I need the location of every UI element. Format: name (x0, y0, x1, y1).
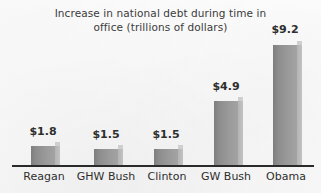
category-label-ghw-bush: GHW Bush (71, 170, 141, 183)
bar-clinton[interactable] (154, 145, 178, 167)
bar-value-obama: $9.2 (261, 23, 309, 36)
bar-obama[interactable] (273, 41, 297, 167)
bar-reagan-side-face (55, 146, 60, 167)
x-axis-line (12, 165, 314, 167)
bar-value-reagan: $1.8 (19, 125, 67, 138)
category-label-gw-bush: GW Bush (192, 170, 260, 183)
bar-reagan-front-face (31, 146, 55, 167)
bar-value-gw-bush: $4.9 (202, 80, 250, 93)
bar-value-ghw-bush: $1.5 (82, 128, 130, 141)
bar-gw-bush[interactable] (214, 97, 238, 167)
bar-chart-figure: Increase in national debt during time in… (0, 0, 321, 193)
category-label-reagan: Reagan (14, 170, 74, 183)
category-label-obama: Obama (258, 170, 314, 183)
bar-obama-side-face (297, 45, 302, 167)
bar-gw-bush-side-face (238, 101, 243, 167)
bar-gw-bush-front-face (214, 101, 238, 167)
category-label-clinton: Clinton (140, 170, 194, 183)
bar-obama-front-face (273, 45, 297, 167)
bar-ghw-bush[interactable] (94, 145, 118, 167)
bar-reagan[interactable] (31, 142, 55, 167)
plot-area: $1.8 $1.5 $1.5 $4.9 $9.2 (0, 40, 321, 167)
bar-value-clinton: $1.5 (142, 128, 190, 141)
